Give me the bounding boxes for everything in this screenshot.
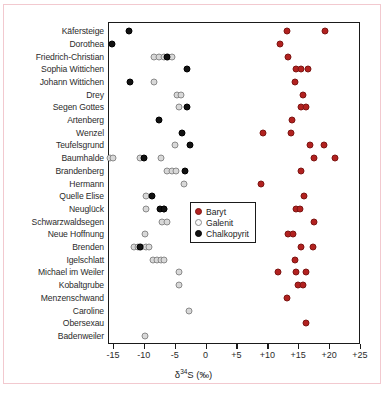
data-point <box>184 104 191 111</box>
x-tick-label: +25 <box>352 350 367 360</box>
data-point <box>297 205 304 212</box>
data-point <box>289 117 296 124</box>
x-tick-label: 0 <box>203 350 208 360</box>
data-point <box>283 28 290 35</box>
data-point <box>160 205 167 212</box>
legend: BarytGalenitChalkopyrit <box>190 202 256 243</box>
category-axis-labels: KäfersteigeDorotheaFriedrich-ChristianSo… <box>0 22 104 344</box>
data-point <box>300 193 307 200</box>
data-point <box>299 282 306 289</box>
x-tick-label: -5 <box>171 350 179 360</box>
data-point <box>184 66 191 73</box>
x-tick <box>236 344 237 349</box>
data-point <box>320 142 327 149</box>
data-point <box>310 244 317 251</box>
legend-item-chalkopyrit: Chalkopyrit <box>195 228 249 239</box>
data-point <box>137 244 144 251</box>
x-tick <box>360 344 361 349</box>
data-point <box>164 218 171 225</box>
x-tick <box>298 344 299 349</box>
data-point <box>303 320 310 327</box>
data-point <box>292 269 299 276</box>
category-label: Badenweiler <box>58 331 104 341</box>
x-axis-title: δ34S (‰) <box>0 368 387 380</box>
data-point <box>172 167 179 174</box>
data-point <box>176 269 183 276</box>
data-point <box>178 129 185 136</box>
data-point <box>142 205 149 212</box>
x-tick <box>329 344 330 349</box>
category-label: Menzenschwand <box>41 293 104 303</box>
data-point <box>292 256 299 263</box>
legend-item-galenit: Galenit <box>195 217 249 228</box>
chalkopyrit-marker-icon <box>195 230 202 237</box>
data-point <box>257 180 264 187</box>
data-point <box>140 155 147 162</box>
sulfur-isotope-scatter-figure: KäfersteigeDorotheaFriedrich-ChristianSo… <box>0 0 387 411</box>
data-point <box>185 307 192 314</box>
data-point <box>291 78 298 85</box>
legend-label: Baryt <box>206 207 226 217</box>
data-point <box>108 40 115 47</box>
legend-label: Galenit <box>206 218 233 228</box>
category-label: Brandenberg <box>55 166 104 176</box>
data-point <box>297 167 304 174</box>
data-point <box>283 294 290 301</box>
data-point <box>148 193 155 200</box>
legend-label: Chalkopyrit <box>206 229 249 239</box>
category-label: Johann Wittichen <box>40 77 104 87</box>
data-point <box>289 231 296 238</box>
x-axis-title-rest: S (‰) <box>187 369 212 380</box>
data-point <box>109 155 116 162</box>
data-point <box>277 40 284 47</box>
category-label: Neue Hoffnung <box>48 229 104 239</box>
category-label: Artenberg <box>67 115 104 125</box>
data-point <box>260 129 267 136</box>
category-label: Sophia Wittichen <box>41 64 104 74</box>
x-tick-label: +15 <box>291 350 306 360</box>
x-tick <box>267 344 268 349</box>
data-point <box>155 117 162 124</box>
category-label: Drey <box>86 90 104 100</box>
data-point <box>310 155 317 162</box>
category-label: Quelle Elise <box>59 191 104 201</box>
category-label: Caroline <box>73 306 104 316</box>
x-tick <box>206 344 207 349</box>
data-point <box>177 91 184 98</box>
data-point <box>176 282 183 289</box>
data-point <box>171 142 178 149</box>
category-label: Michael im Weiler <box>38 267 104 277</box>
data-point <box>300 91 307 98</box>
category-label: Baumhalde <box>61 153 104 163</box>
x-tick <box>113 344 114 349</box>
data-point <box>150 78 157 85</box>
data-point <box>306 142 313 149</box>
category-label: Segen Gottes <box>53 102 104 112</box>
data-point <box>142 332 149 339</box>
category-label: Teufelsgrund <box>56 140 104 150</box>
x-tick-label: +5 <box>231 350 241 360</box>
data-point <box>176 104 183 111</box>
category-label: Neuglück <box>69 204 104 214</box>
x-tick <box>144 344 145 349</box>
data-point <box>332 155 339 162</box>
x-tick-label: +20 <box>321 350 336 360</box>
category-label: Obersexau <box>63 318 104 328</box>
data-point <box>297 66 304 73</box>
data-point <box>310 218 317 225</box>
data-point <box>126 28 133 35</box>
data-point <box>288 129 295 136</box>
x-tick-label: -15 <box>106 350 119 360</box>
data-point <box>142 231 149 238</box>
x-tick-label: -10 <box>137 350 150 360</box>
plot-area <box>108 22 360 344</box>
category-label: Kobaltgrube <box>59 280 104 290</box>
data-point <box>127 78 134 85</box>
data-point <box>302 104 309 111</box>
category-label: Friedrich-Christian <box>36 52 104 62</box>
data-point <box>305 66 312 73</box>
data-point <box>164 53 171 60</box>
category-label: Brenden <box>72 242 104 252</box>
data-point <box>146 244 153 251</box>
data-point <box>182 167 189 174</box>
